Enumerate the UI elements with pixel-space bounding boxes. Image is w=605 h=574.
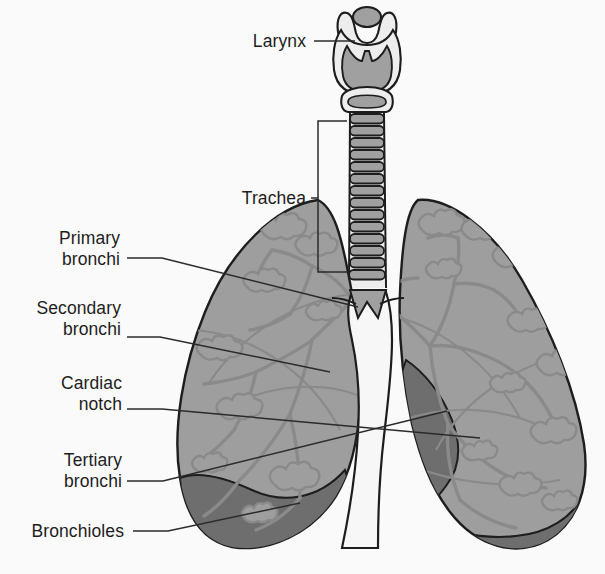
label-tertiary-bronchi: Tertiary bronchi	[45, 450, 122, 492]
label-secondary-bronchi: Secondary bronchi	[25, 298, 121, 340]
label-cardiac-notch: Cardiac notch	[45, 373, 122, 415]
label-primary-bronchi: Primary bronchi	[44, 228, 120, 270]
trachea-left-wall	[349, 113, 350, 288]
epiglottis	[353, 7, 381, 27]
larynx-structure	[333, 7, 400, 112]
respiratory-system-figure: Larynx Trachea Primary bronchi Secondary…	[0, 0, 605, 574]
label-trachea: Trachea	[214, 188, 306, 209]
trachea-structure	[349, 113, 386, 288]
vocal-folds	[342, 46, 392, 92]
label-larynx: Larynx	[222, 31, 306, 52]
label-bronchioles: Bronchioles	[20, 521, 124, 542]
cricoid-inner	[348, 95, 386, 108]
